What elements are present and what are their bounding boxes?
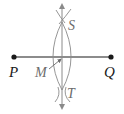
arc-s-left <box>56 10 65 23</box>
label-q: Q <box>104 64 115 80</box>
m-pointer-arrow <box>49 60 60 69</box>
point-q <box>108 54 113 59</box>
arc-left <box>53 22 62 90</box>
label-s: S <box>68 18 75 33</box>
label-t: T <box>67 86 76 101</box>
label-p: P <box>8 64 18 80</box>
label-m: M <box>34 65 48 80</box>
bisector-diagram: P Q S T M <box>0 0 124 114</box>
point-p <box>11 54 16 59</box>
arc-t-left <box>55 87 59 102</box>
